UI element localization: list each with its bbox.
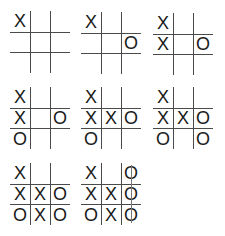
empty-cell <box>121 129 141 149</box>
o-mark: O <box>50 184 70 204</box>
board-3: XXO <box>153 13 213 75</box>
empty-cell <box>30 108 50 128</box>
board-1: X <box>10 11 70 73</box>
x-mark: X <box>81 184 101 204</box>
x-mark: X <box>101 108 121 128</box>
o-mark: O <box>193 34 213 54</box>
o-mark: O <box>50 205 70 225</box>
empty-cell <box>50 129 70 149</box>
x-mark: X <box>81 12 101 32</box>
win-strike-line <box>131 165 132 223</box>
empty-cell <box>121 54 141 74</box>
board-2: XO <box>81 12 141 74</box>
empty-cell <box>30 11 50 31</box>
o-mark: O <box>193 108 213 128</box>
x-mark: X <box>101 184 121 204</box>
board-4: XXOO <box>10 87 70 149</box>
o-mark: O <box>81 205 101 225</box>
x-mark: X <box>81 163 101 183</box>
x-mark: X <box>153 108 173 128</box>
empty-cell <box>50 32 70 52</box>
o-mark: O <box>10 205 30 225</box>
empty-cell <box>10 53 30 73</box>
empty-cell <box>173 13 193 33</box>
o-mark: O <box>10 129 30 149</box>
x-mark: X <box>30 205 50 225</box>
x-mark: X <box>153 13 173 33</box>
x-mark: X <box>153 87 173 107</box>
empty-cell <box>50 87 70 107</box>
x-mark: X <box>101 205 121 225</box>
o-mark: O <box>193 129 213 149</box>
empty-cell <box>101 33 121 53</box>
empty-cell <box>173 129 193 149</box>
board-6: XXXOOO <box>153 87 213 149</box>
board-8: XOXXOOXO <box>81 163 141 225</box>
empty-cell <box>50 11 70 31</box>
board-5: XXXOO <box>81 87 141 149</box>
empty-cell <box>101 12 121 32</box>
x-mark: X <box>10 11 30 31</box>
empty-cell <box>101 54 121 74</box>
empty-cell <box>121 12 141 32</box>
x-mark: X <box>10 87 30 107</box>
empty-cell <box>50 53 70 73</box>
empty-cell <box>193 55 213 75</box>
empty-cell <box>30 53 50 73</box>
empty-cell <box>193 87 213 107</box>
empty-cell <box>101 129 121 149</box>
empty-cell <box>30 163 50 183</box>
o-mark: O <box>121 33 141 53</box>
x-mark: X <box>153 34 173 54</box>
x-mark: X <box>10 163 30 183</box>
x-mark: X <box>10 108 30 128</box>
empty-cell <box>173 87 193 107</box>
o-mark: O <box>121 108 141 128</box>
empty-cell <box>173 34 193 54</box>
empty-cell <box>173 55 193 75</box>
empty-cell <box>193 13 213 33</box>
x-mark: X <box>30 184 50 204</box>
empty-cell <box>121 87 141 107</box>
empty-cell <box>81 54 101 74</box>
empty-cell <box>153 55 173 75</box>
o-mark: O <box>153 129 173 149</box>
x-mark: X <box>81 87 101 107</box>
empty-cell <box>50 163 70 183</box>
x-mark: X <box>10 184 30 204</box>
empty-cell <box>30 32 50 52</box>
empty-cell <box>10 32 30 52</box>
empty-cell <box>30 129 50 149</box>
empty-cell <box>81 33 101 53</box>
x-mark: X <box>81 108 101 128</box>
board-7: XXXOOXO <box>10 163 70 225</box>
empty-cell <box>101 87 121 107</box>
o-mark: O <box>81 129 101 149</box>
x-mark: X <box>173 108 193 128</box>
empty-cell <box>30 87 50 107</box>
o-mark: O <box>50 108 70 128</box>
empty-cell <box>101 163 121 183</box>
